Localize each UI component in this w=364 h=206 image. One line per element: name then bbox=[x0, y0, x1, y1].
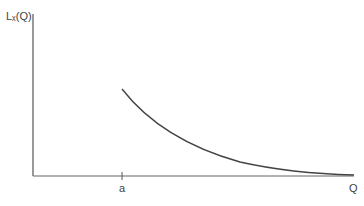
chart-canvas bbox=[0, 0, 364, 206]
x-tick-label-a: a bbox=[119, 182, 125, 194]
x-axis-label: Q bbox=[349, 182, 358, 194]
y-axis-label: Lₓ(Q) bbox=[6, 10, 32, 22]
curve-lx bbox=[122, 89, 354, 175]
